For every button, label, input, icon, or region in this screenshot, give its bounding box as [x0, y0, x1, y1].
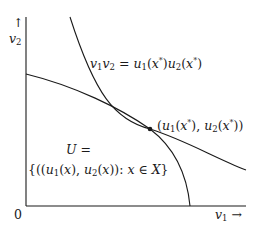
hyperbola-curve [70, 17, 246, 170]
set-label-line2: {((u1(x), u2(x)): x ∈ X} [28, 164, 169, 178]
set-label-line1: U = [66, 144, 91, 157]
diagram-canvas [0, 0, 259, 230]
origin-label: 0 [14, 209, 22, 222]
hyperbola-label: v1v2 = u1(x*)u2(x*) [90, 57, 202, 72]
point-label: (u1(x*), u2(x*)) [157, 119, 243, 134]
y-axis-arrow: ↑ [13, 17, 23, 29]
tangency-point [148, 127, 153, 132]
x-axis-label: v1 → [215, 209, 242, 223]
utility-frontier-curve [26, 74, 190, 206]
y-axis-label: v2 [9, 33, 21, 47]
